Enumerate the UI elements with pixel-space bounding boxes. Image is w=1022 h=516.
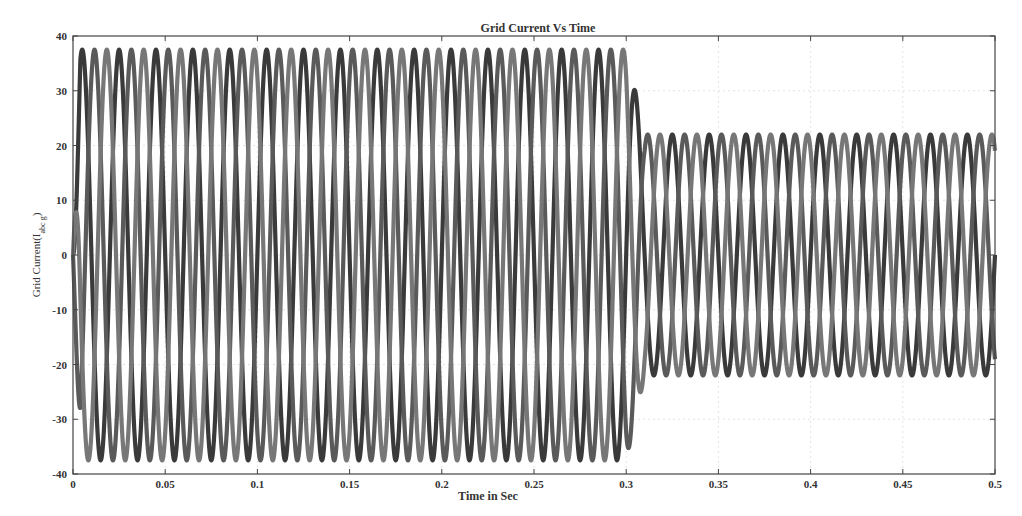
x-tick-label: 0 xyxy=(70,478,76,490)
svg-text:Grid Current(Iabc g): Grid Current(Iabc g) xyxy=(30,212,47,297)
x-axis-label: Time in Sec xyxy=(458,489,518,503)
grid-current-chart: Grid Current Vs Time 00.050.10.150.20.25… xyxy=(0,0,1022,516)
chart-title: Grid Current Vs Time xyxy=(481,21,596,35)
x-tick-label: 0.1 xyxy=(251,478,265,490)
x-tick-label: 0.45 xyxy=(893,478,913,490)
y-tick-label: -10 xyxy=(52,304,67,316)
x-tick-label: 0.4 xyxy=(804,478,818,490)
y-tick-label: -30 xyxy=(52,413,67,425)
x-tick-label: 0.5 xyxy=(988,478,1002,490)
y-tick-label: 20 xyxy=(56,140,68,152)
y-tick-label: 10 xyxy=(56,194,68,206)
y-tick-label: 0 xyxy=(62,249,68,261)
y-axis-label-subscript: abc g xyxy=(38,216,47,233)
y-axis-label: Grid Current(Iabc g) xyxy=(30,212,47,297)
y-tick-label: 40 xyxy=(56,30,68,42)
x-tick-label: 0.2 xyxy=(435,478,449,490)
x-tick-label: 0.25 xyxy=(524,478,544,490)
y-tick-label: -20 xyxy=(52,359,67,371)
y-axis-label-close: ) xyxy=(30,212,43,216)
y-tick-label: -40 xyxy=(52,468,67,480)
y-tick-label: 30 xyxy=(56,85,68,97)
x-tick-label: 0.05 xyxy=(156,478,176,490)
x-tick-label: 0.15 xyxy=(340,478,360,490)
y-axis-label-main: Grid Current(I xyxy=(30,233,43,297)
x-tick-label: 0.3 xyxy=(619,478,633,490)
waveform-series xyxy=(73,50,995,461)
x-tick-label: 0.35 xyxy=(709,478,729,490)
